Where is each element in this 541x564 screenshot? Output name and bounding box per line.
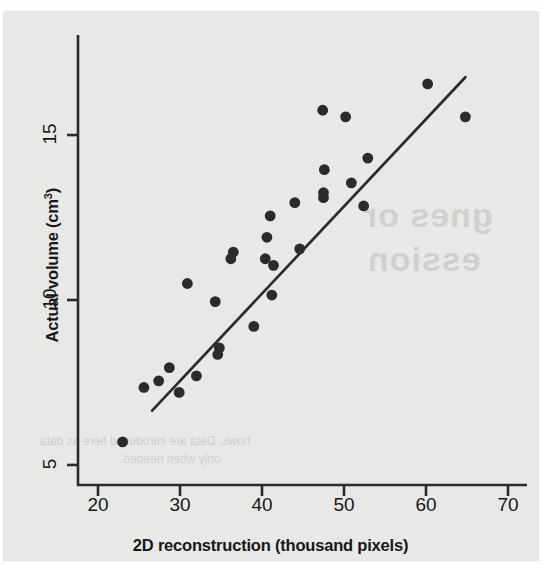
x-tick-label: 50	[322, 494, 366, 516]
data-point	[139, 382, 150, 393]
scatter-plot-canvas	[0, 0, 541, 564]
data-point	[182, 278, 193, 289]
data-point	[228, 247, 239, 258]
data-point	[214, 342, 225, 353]
y-tick-label: 5	[39, 442, 61, 486]
data-point	[265, 210, 276, 221]
data-point	[268, 260, 279, 271]
x-tick-label: 20	[76, 494, 120, 516]
trendline	[152, 77, 465, 410]
y-axis-title-superscript: 3	[42, 193, 54, 199]
data-point	[210, 296, 221, 307]
data-point	[317, 105, 328, 116]
data-point	[358, 201, 369, 212]
data-point	[422, 78, 433, 89]
figure-panel: gnes or ession hows. Data are introduced…	[0, 0, 541, 564]
data-point	[346, 177, 357, 188]
data-point	[164, 362, 175, 373]
data-point	[262, 232, 273, 243]
data-point	[289, 197, 300, 208]
data-point	[362, 153, 373, 164]
data-point	[191, 371, 202, 382]
data-point	[266, 290, 277, 301]
data-point	[319, 164, 330, 175]
data-point	[340, 111, 351, 122]
data-point	[248, 321, 259, 332]
data-point	[460, 111, 471, 122]
x-tick-label: 60	[404, 494, 448, 516]
data-point	[117, 437, 128, 448]
x-tick-label: 40	[240, 494, 284, 516]
x-tick-label: 30	[158, 494, 202, 516]
data-point	[318, 187, 329, 198]
data-point	[174, 387, 185, 398]
y-axis-title: Actual volume (cm3)	[42, 95, 63, 435]
x-tick-label: 70	[486, 494, 530, 516]
axes-group	[67, 35, 527, 496]
y-axis-title-text: Actual volume (cm	[43, 199, 61, 342]
data-point	[294, 243, 305, 254]
y-axis-title-tail: )	[43, 188, 61, 193]
x-axis-title: 2D reconstruction (thousand pixels)	[0, 536, 541, 555]
data-point	[153, 375, 164, 386]
